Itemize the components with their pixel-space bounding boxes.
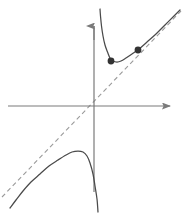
secant-point (135, 47, 142, 54)
function-graph-plot (0, 0, 188, 214)
graph-figure (0, 0, 188, 214)
local-minimum-point (108, 58, 115, 65)
upper-right-branch-curve (100, 9, 180, 62)
lower-left-branch-curve (10, 151, 98, 212)
